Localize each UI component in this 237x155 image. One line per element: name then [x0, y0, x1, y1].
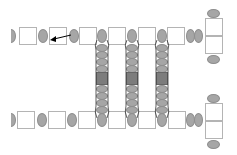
arrow-line	[54, 35, 71, 39]
ladder-3-left-strand	[155, 40, 157, 118]
ladder-3-right-strand	[167, 40, 169, 118]
ladder-1-left-strand	[95, 40, 97, 118]
ladder-2-right-strand	[137, 40, 139, 118]
connector-overlay	[0, 0, 237, 155]
ladder-2-left-strand	[125, 40, 127, 118]
arrow-head-icon	[50, 36, 56, 42]
ladder-1-right-strand	[107, 40, 109, 118]
